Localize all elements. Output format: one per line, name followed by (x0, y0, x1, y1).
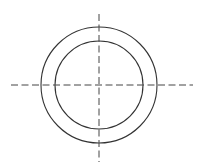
technical-drawing (0, 0, 202, 168)
